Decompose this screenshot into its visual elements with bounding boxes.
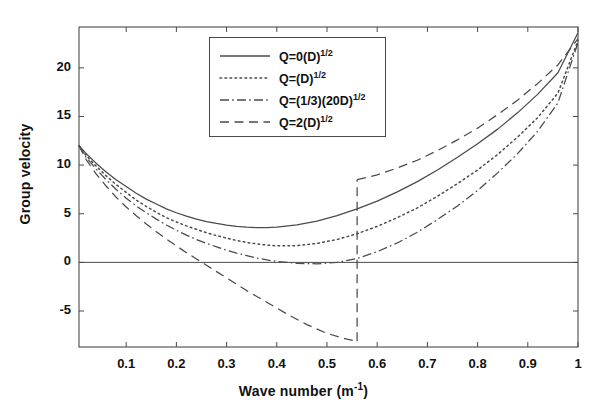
legend-label: Q=(D)1/2 — [279, 70, 326, 86]
legend-item-0: Q=0(D)1/2 — [219, 45, 333, 67]
legend-label-exponent: 1/2 — [320, 48, 333, 58]
legend-line-sample — [219, 115, 271, 129]
legend-item-1: Q=(D)1/2 — [219, 67, 326, 89]
legend-line-sample — [219, 71, 271, 85]
legend-label-exponent: 1/2 — [313, 70, 326, 80]
y-tick-label: 10 — [27, 156, 71, 171]
legend-label: Q=2(D)1/2 — [279, 114, 333, 130]
y-tick-label: 5 — [27, 205, 71, 220]
legend: Q=0(D)1/2Q=(D)1/2Q=(1/3)(20D)1/2Q=2(D)1/… — [209, 37, 386, 137]
legend-label-exponent: 1/2 — [320, 114, 333, 124]
y-tick-label: 15 — [27, 107, 71, 122]
legend-item-3: Q=2(D)1/2 — [219, 111, 333, 133]
legend-label: Q=0(D)1/2 — [279, 48, 333, 64]
legend-label: Q=(1/3)(20D)1/2 — [279, 92, 366, 108]
x-axis-label-superscript: -1 — [354, 381, 363, 392]
x-axis-label-text: Wave number (m — [239, 383, 354, 399]
group-velocity-chart: Group velocity Wave number (m-1) 0.10.20… — [0, 0, 607, 412]
series-line-3 — [357, 39, 578, 180]
x-axis-label: Wave number (m-1) — [0, 381, 607, 399]
legend-label-base: Q=(1/3)(20D) — [279, 94, 353, 108]
legend-item-2: Q=(1/3)(20D)1/2 — [219, 89, 366, 111]
legend-line-sample — [219, 93, 271, 107]
legend-label-base: Q=0(D) — [279, 50, 320, 64]
legend-label-base: Q=(D) — [279, 72, 313, 86]
series-line-3 — [79, 146, 357, 342]
y-tick-label: -5 — [27, 302, 71, 317]
legend-label-exponent: 1/2 — [353, 92, 366, 102]
y-tick-label: 20 — [27, 59, 71, 74]
x-tick-label: 1 — [548, 356, 607, 371]
x-axis-label-tail: ) — [363, 383, 368, 399]
y-axis-label-wrapper: Group velocity — [10, 0, 40, 347]
legend-label-base: Q=2(D) — [279, 116, 320, 130]
y-tick-label: 0 — [27, 253, 71, 268]
legend-line-sample — [219, 49, 271, 63]
